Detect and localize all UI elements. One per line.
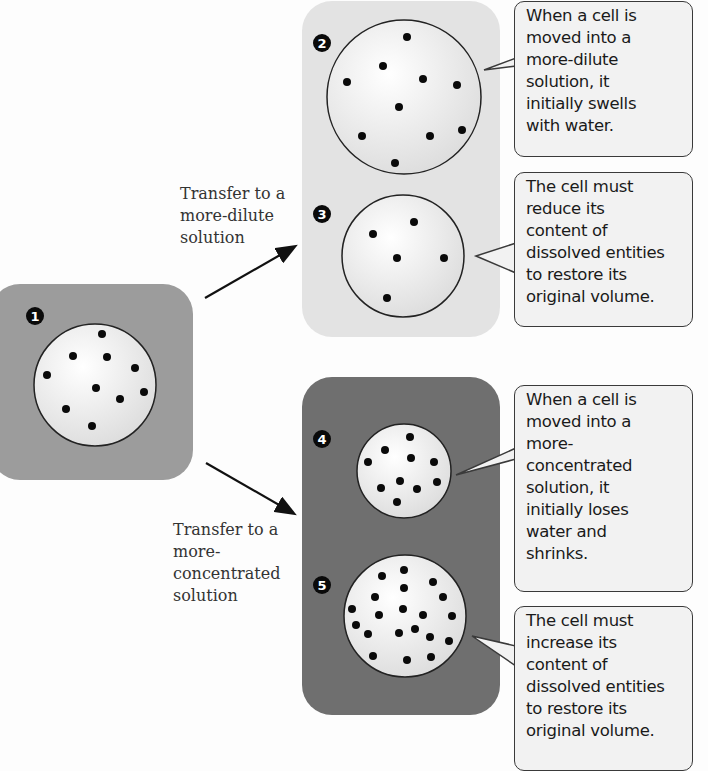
callout-tail-3 bbox=[456, 448, 516, 475]
cell-1 bbox=[34, 324, 156, 446]
callout-swells: When a cell is moved into a more-dilute … bbox=[514, 1, 693, 157]
callout-tail-4 bbox=[472, 636, 516, 666]
step-number-5: 5 bbox=[313, 576, 331, 594]
step-number-4: 4 bbox=[313, 430, 331, 448]
callout-tail-2 bbox=[476, 243, 516, 273]
step-number-1: 1 bbox=[26, 307, 44, 325]
arrow-to-dilute bbox=[205, 247, 294, 298]
arrow-to-concentrated bbox=[206, 463, 293, 513]
cell-2 bbox=[327, 20, 481, 174]
callout-reduce: The cell must reduce its content of diss… bbox=[514, 172, 693, 327]
transfer-dilute-label: Transfer to a more-dilute solution bbox=[180, 183, 285, 249]
step-number-2: 2 bbox=[313, 34, 331, 52]
cell-3 bbox=[342, 195, 464, 317]
callout-increase: The cell must increase its content of di… bbox=[514, 606, 693, 771]
callout-tail-1 bbox=[484, 58, 516, 70]
cell-5 bbox=[344, 555, 466, 677]
cell-4 bbox=[357, 424, 451, 518]
transfer-concentrated-label: Transfer to a more- concentrated solutio… bbox=[173, 519, 280, 607]
step-number-3: 3 bbox=[313, 205, 331, 223]
callout-shrinks: When a cell is moved into a more- concen… bbox=[514, 385, 693, 592]
